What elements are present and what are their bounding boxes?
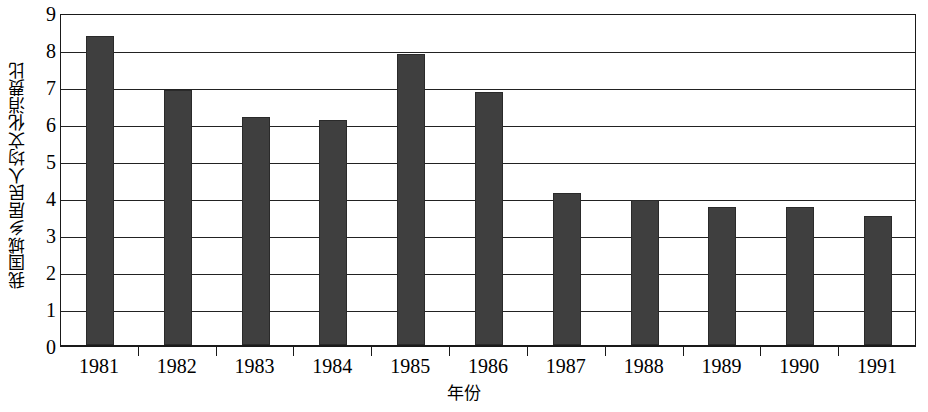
y-axis-tick-label: 0 <box>30 337 56 357</box>
bar <box>708 207 736 345</box>
x-axis-tick-label: 1986 <box>468 352 508 380</box>
x-axis-tick-label: 1985 <box>390 352 430 380</box>
y-axis-tick-label: 8 <box>30 41 56 61</box>
bar <box>553 193 581 345</box>
y-axis-tick-label: 5 <box>30 152 56 172</box>
y-axis-tick-label: 2 <box>30 263 56 283</box>
y-axis-tick-label: 1 <box>30 300 56 320</box>
bar-chart-figure: 我国城乡居民人均文化消费比 0123456789 198119821983198… <box>0 0 928 412</box>
y-axis-tick-labels: 0123456789 <box>30 0 56 360</box>
bar <box>164 90 192 345</box>
y-axis-tick-label: 7 <box>30 78 56 98</box>
bar <box>397 54 425 345</box>
x-axis-tick-label: 1988 <box>624 352 664 380</box>
x-axis-title: 年份 <box>0 382 928 404</box>
y-axis-tick-label: 3 <box>30 226 56 246</box>
bars-layer <box>61 15 915 345</box>
x-axis-tick-label: 1981 <box>79 352 119 380</box>
bar <box>86 36 114 345</box>
bar <box>631 200 659 345</box>
y-axis-title: 我国城乡居民人均文化消费比 <box>0 0 34 350</box>
bar <box>786 207 814 345</box>
x-axis-tick-label: 1991 <box>857 352 897 380</box>
y-axis-title-label: 我国城乡居民人均文化消费比 <box>9 61 26 289</box>
x-axis-title-label: 年份 <box>447 383 482 403</box>
plot-area <box>60 14 916 347</box>
bar <box>864 216 892 346</box>
bar <box>475 92 503 345</box>
x-axis-tick-labels: 1981198219831984198519861987198819891990… <box>60 352 916 382</box>
x-axis-tick-label: 1990 <box>779 352 819 380</box>
y-axis-tick-label: 9 <box>30 4 56 24</box>
y-axis-tick-label: 4 <box>30 189 56 209</box>
x-axis-tick-label: 1982 <box>157 352 197 380</box>
bar <box>319 120 347 345</box>
x-axis-tick-label: 1987 <box>546 352 586 380</box>
x-axis-tick-label: 1984 <box>312 352 352 380</box>
x-axis-tick-label: 1989 <box>701 352 741 380</box>
x-axis-tick-label: 1983 <box>235 352 275 380</box>
y-axis-tick-label: 6 <box>30 115 56 135</box>
bar <box>242 117 270 345</box>
